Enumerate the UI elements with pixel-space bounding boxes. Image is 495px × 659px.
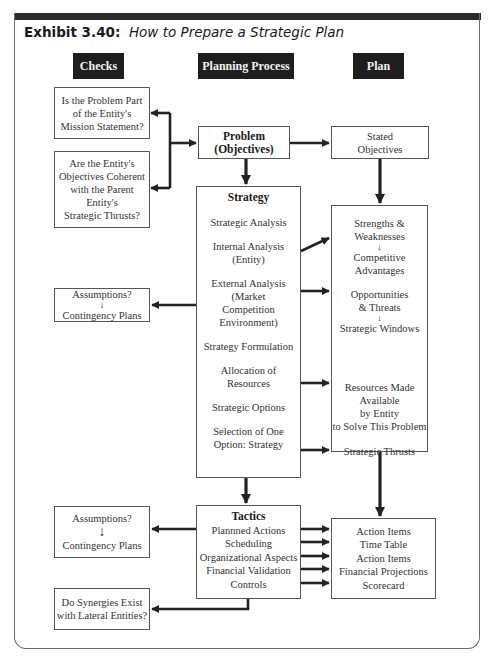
check-objectives-coherent: Are the Entity's Objectives Coherent wit… — [54, 151, 150, 228]
strategy-heading: Strategy — [228, 191, 270, 204]
strategy-item: External Analysis (Market Competition En… — [211, 277, 285, 329]
strategy-item: Strategy Formulation — [204, 340, 294, 353]
problem-box: Problem (Objectives) — [198, 126, 290, 159]
stated-objectives-box: Stated Objectives — [331, 126, 429, 159]
plan-output-item: Action Items — [356, 552, 411, 566]
strategic-thrusts: Strategic Thrusts — [344, 445, 415, 458]
problem-text: Problem (Objectives) — [214, 130, 273, 156]
tactics-heading: Tactics — [231, 510, 265, 524]
check-mission-statement: Is the Problem Part of the Entity's Miss… — [54, 87, 150, 139]
tactics-box: Tactics Plannned Actions Scheduling Orga… — [196, 505, 301, 599]
check-synergies-text: Do Synergies Exist with Lateral Entities… — [57, 596, 147, 622]
strategy-item: Allocation of Resources — [221, 364, 277, 390]
exhibit-caption: How to Prepare a Strategic Plan — [129, 24, 344, 40]
header-planning-process: Planning Process — [198, 53, 294, 79]
plan-output-item: Financial Projections — [339, 565, 428, 579]
tactics-item: Organizational Aspects — [200, 551, 298, 565]
tactics-item: Controls — [230, 578, 266, 592]
contingency-plans-label: Contingency Plans — [62, 539, 141, 552]
plan-output-item: Action Items — [356, 525, 411, 539]
down-arrow-icon: ↓ — [100, 301, 105, 309]
check-assumptions-tactics: Assumptions? ↓ Contingency Plans — [54, 506, 150, 558]
tactics-item: Scheduling — [225, 537, 272, 551]
strategy-item: Strategic Analysis — [210, 216, 286, 229]
check-synergies: Do Synergies Exist with Lateral Entities… — [54, 588, 150, 630]
opportunities-threats: Opportunities & Threats — [351, 288, 409, 314]
competitive-advantages: Competitive Advantages — [354, 251, 406, 277]
check-coherent-text: Are the Entity's Objectives Coherent wit… — [59, 157, 145, 222]
down-arrow-icon: ↓ — [99, 525, 106, 539]
tactics-item: Financial Validation — [206, 564, 291, 578]
tactics-item: Plannned Actions — [212, 524, 286, 538]
check-assumptions-strategy: Assumptions? ↓ Contingency Plans — [54, 288, 150, 322]
header-checks: Checks — [73, 53, 124, 79]
stated-objectives-text: Stated Objectives — [358, 130, 403, 156]
strengths-weaknesses: Strengths & Weaknesses — [354, 217, 404, 243]
resources-available: Resources Made Available by Entity to So… — [332, 381, 426, 433]
exhibit-title: Exhibit 3.40: How to Prepare a Strategic… — [24, 24, 344, 40]
strategy-item: Internal Analysis (Entity) — [213, 240, 284, 266]
down-arrow-icon: ↓ — [377, 243, 382, 251]
strategy-outputs-box: Strengths & Weaknesses ↓ Competitive Adv… — [331, 205, 428, 452]
down-arrow-icon: ↓ — [377, 314, 382, 322]
plan-output-item: Time Table — [360, 538, 407, 552]
plan-output-item: Scorecard — [363, 579, 405, 593]
exhibit-number: Exhibit 3.40: — [24, 24, 120, 40]
tactics-outputs-box: Action Items Time Table Action Items Fin… — [331, 518, 436, 599]
check-mission-text: Is the Problem Part of the Entity's Miss… — [60, 94, 143, 133]
header-plan: Plan — [353, 53, 404, 79]
strategy-item: Strategic Options — [212, 401, 285, 414]
contingency-plans-label: Contingency Plans — [62, 309, 141, 322]
strategy-box: Strategy Strategic Analysis Internal Ana… — [196, 186, 301, 478]
strategic-windows: Strategic Windows — [340, 322, 420, 335]
strategy-item: Selection of One Option: Strategy — [213, 425, 284, 451]
